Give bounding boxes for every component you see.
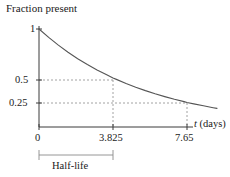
guide-lines [39,80,187,127]
y-axis-tick-label-05: 0.5 [15,75,28,86]
half-life-annotation-label: Half-life [52,161,88,172]
decay-curve [39,29,217,108]
x-axis-label: t (days) [194,119,226,130]
axis-ticks [36,29,187,130]
figure-container: Fraction present 1 0.5 0.25 0 3.825 7.65… [0,0,230,177]
y-axis-tick-label-1: 1 [30,24,35,35]
x-axis-variable: t [194,118,197,129]
axes [39,26,193,127]
chart-title: Fraction present [6,3,77,14]
x-axis-tick-label-0: 0 [35,133,40,144]
x-axis-tick-label-765: 7.65 [175,133,193,144]
half-life-bracket [39,150,113,160]
x-axis-units: (days) [200,118,226,129]
x-axis-tick-label-3825: 3.825 [99,133,123,144]
y-axis-tick-label-025: 0.25 [9,98,27,109]
